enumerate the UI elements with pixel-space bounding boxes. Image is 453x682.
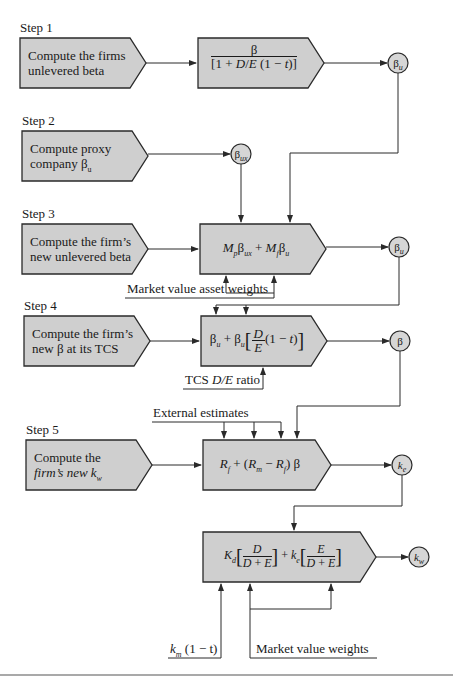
step4-description: Compute the firm’s new β at its TCS <box>32 326 133 356</box>
step4-formula: βu + βu[DE(1 − t)] <box>201 327 313 354</box>
step1-label: Step 1 <box>20 20 53 36</box>
step2-description: Compute proxy company βu <box>30 141 111 177</box>
step1-formula: β[1 + D/E (1 − t)] <box>198 43 310 70</box>
step3-formula: Mpβux + Mfβu <box>200 240 312 258</box>
node-k-e: ke <box>391 454 413 481</box>
node-k-w: kw <box>408 546 430 573</box>
external-estimates-note: External estimates <box>153 405 249 421</box>
node-beta-u: βu <box>387 52 409 79</box>
step5-description: Compute the firm’s new kw <box>34 450 102 486</box>
step1-description: Compute the firms unlevered beta <box>28 48 126 78</box>
step3-description: Compute the firm’s new unlevered beta <box>30 234 131 264</box>
cost-of-debt-note: km (1 − t) <box>170 641 217 659</box>
tcs-ratio-note: TCS D/E ratio <box>185 372 260 388</box>
step4-label: Step 4 <box>24 298 57 314</box>
step2-label: Step 2 <box>22 113 55 129</box>
step3-label: Step 3 <box>22 206 55 222</box>
wacc-formula: Kd[DD + E] + ke[ED + E] <box>203 543 363 570</box>
asset-weights-note: Market value asset weights <box>127 281 268 297</box>
node-beta: β <box>389 330 411 352</box>
step5-label: Step 5 <box>26 422 59 438</box>
node-beta-u-new: βu <box>388 236 410 263</box>
node-beta-ux: βux <box>230 143 252 170</box>
market-weights-note: Market value weights <box>256 641 369 657</box>
step5-formula: Rf + (Rm − Rf) β <box>203 456 317 474</box>
